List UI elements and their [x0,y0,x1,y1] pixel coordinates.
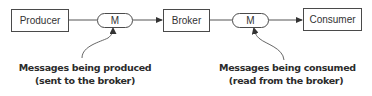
produced-caption-line1: Messages being produced [18,62,152,75]
produced-caption: Messages being produced (sent to the bro… [18,62,152,87]
consumed-message-label: M [246,15,254,26]
producer-label: Producer [20,15,61,26]
consumed-caption-line1: Messages being consumed [219,62,353,75]
consumed-message-token: M [232,13,269,28]
consumed-caption-line2: (read from the broker) [219,75,353,88]
produced-message-label: M [111,15,119,26]
consumed-caption: Messages being consumed (read from the b… [219,62,353,87]
broker-node: Broker [163,9,210,32]
message-flow-diagram: Producer M Broker M Consumer Messages be… [0,0,372,96]
consumer-node: Consumer [303,8,362,31]
consumer-label: Consumer [309,14,355,25]
broker-label: Broker [172,15,201,26]
producer-node: Producer [11,9,69,32]
produced-pointer-arrow [82,29,113,58]
produced-message-token: M [97,13,133,28]
produced-caption-line2: (sent to the broker) [18,75,152,88]
consumed-pointer-arrow [254,29,284,60]
